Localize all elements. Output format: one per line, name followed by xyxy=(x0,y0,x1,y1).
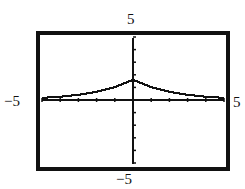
graph-screen xyxy=(0,0,245,189)
axes xyxy=(42,37,224,164)
